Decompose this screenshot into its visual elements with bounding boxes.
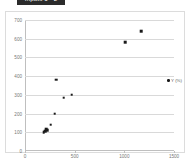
x-tick-mark xyxy=(174,151,175,153)
y-tick-label: 500 xyxy=(14,55,22,60)
data-point xyxy=(124,41,127,44)
dot-marker-icon xyxy=(167,79,169,81)
x-tick-mark xyxy=(124,151,125,153)
data-point xyxy=(140,30,143,33)
y-tick-label: 200 xyxy=(14,111,22,116)
title-bar: Inputs 1 - 2 xyxy=(17,0,65,5)
x-axis-line xyxy=(25,150,174,151)
y-tick-label: 700 xyxy=(14,18,22,23)
y-tick-label: 600 xyxy=(14,36,22,41)
chart-card: 0100200300400500600700050010001500 Y (%) xyxy=(5,11,185,153)
y-tick-label: 400 xyxy=(14,74,22,79)
x-tick-label: 1500 xyxy=(169,154,179,158)
legend-entry-label: Y (%) xyxy=(171,78,182,83)
x-tick-label: 500 xyxy=(71,154,79,158)
data-point xyxy=(55,79,58,82)
y-gridline xyxy=(25,57,174,58)
x-tick-mark xyxy=(25,151,26,153)
x-tick-mark xyxy=(75,151,76,153)
data-point xyxy=(70,94,73,97)
data-point xyxy=(50,124,53,127)
y-gridline xyxy=(25,95,174,96)
y-tick-label: 0 xyxy=(19,149,22,154)
data-point xyxy=(46,129,49,132)
data-point xyxy=(62,96,65,99)
x-tick-label: 1000 xyxy=(119,154,129,158)
y-gridline xyxy=(25,132,174,133)
y-tick-label: 100 xyxy=(14,130,22,135)
y-gridline xyxy=(25,76,174,77)
chart-legend: Y (%) xyxy=(167,78,182,83)
y-tick-label: 300 xyxy=(14,92,22,97)
y-gridline xyxy=(25,114,174,115)
y-gridline xyxy=(25,39,174,40)
y-gridline xyxy=(25,20,174,21)
x-tick-label: 0 xyxy=(24,154,27,158)
chart-screenshot-root: Inputs 1 - 2 010020030040050060070005001… xyxy=(0,0,190,158)
plot-area: 0100200300400500600700050010001500 xyxy=(25,20,174,151)
data-point xyxy=(54,112,57,115)
